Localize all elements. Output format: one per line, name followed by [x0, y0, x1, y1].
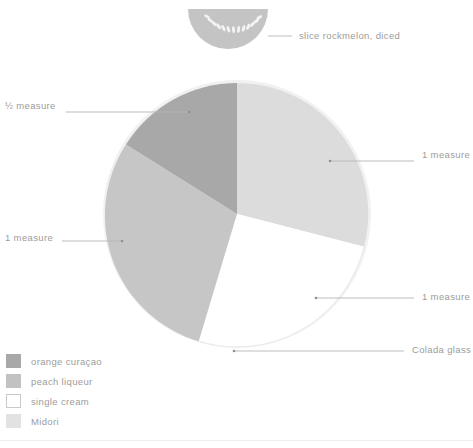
legend-item-midori[interactable]: Midori	[6, 412, 196, 430]
legend-swatch-orange-curacao	[6, 354, 21, 368]
legend-label-midori: Midori	[31, 416, 59, 427]
callout-garnish: slice rockmelon, diced	[299, 30, 400, 42]
callout-orange-curacao: ½ measure	[5, 100, 56, 112]
legend-label-peach-liqueur: peach liqueur	[31, 376, 93, 387]
legend-swatch-peach-liqueur	[6, 374, 21, 388]
legend-item-peach-liqueur[interactable]: peach liqueur	[6, 372, 196, 390]
callout-peach-liqueur: 1 measure	[5, 232, 53, 244]
callout-glass: Colada glass	[412, 344, 471, 356]
legend-label-orange-curacao: orange curaçao	[31, 356, 102, 367]
pie-chart-figure: slice rockmelon, diced ½ measure 1 measu…	[0, 0, 473, 448]
legend: orange curaçao peach liqueur single crea…	[6, 352, 196, 432]
legend-item-single-cream[interactable]: single cream	[6, 392, 196, 410]
legend-item-orange-curacao[interactable]: orange curaçao	[6, 352, 196, 370]
legend-label-single-cream: single cream	[31, 396, 89, 407]
legend-swatch-single-cream	[6, 394, 21, 408]
callout-midori: 1 measure	[422, 149, 470, 161]
legend-swatch-midori	[6, 414, 21, 428]
garnish-rockmelon	[188, 9, 268, 49]
callout-single-cream: 1 measure	[422, 291, 470, 303]
bottom-divider	[0, 440, 473, 441]
